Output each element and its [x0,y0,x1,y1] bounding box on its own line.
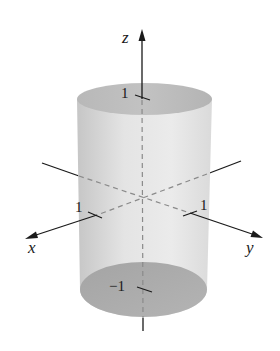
y-tick-label: 1 [200,197,208,213]
z-axis-arrowhead-icon [139,29,146,41]
cylinder-top-face [77,83,212,115]
negative-y-axis-line [42,163,79,176]
y-axis-label: y [244,238,254,257]
cylinder-figure: z x y 1 −1 1 1 [0,0,280,351]
negative-x-axis-line [207,161,241,174]
z-axis-label: z [121,28,129,47]
x-tick-label: 1 [75,199,83,215]
x-axis-label: x [27,238,36,257]
z-tick-top-label: 1 [121,85,129,101]
z-tick-bottom-label: −1 [109,278,125,294]
y-axis-arrowhead-icon [251,231,264,239]
cylinder-diagram-svg: z x y 1 −1 1 1 [0,0,280,351]
